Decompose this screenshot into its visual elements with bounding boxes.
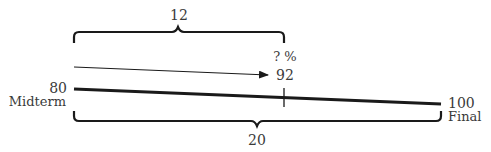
score-diagram: 12 ? % 92 80 Midterm 100 Final 20: [0, 0, 491, 152]
unknown-value-label: 92: [276, 67, 294, 83]
score-line: [74, 89, 441, 104]
final-label: Final: [448, 109, 481, 124]
midterm-label: Midterm: [9, 94, 66, 109]
arrow-icon: [74, 67, 268, 75]
top-brace-label: 12: [170, 7, 188, 23]
bottom-brace: [74, 111, 441, 126]
top-brace: [74, 27, 284, 43]
unknown-percent-label: ? %: [273, 49, 296, 64]
bottom-brace-label: 20: [248, 132, 266, 148]
